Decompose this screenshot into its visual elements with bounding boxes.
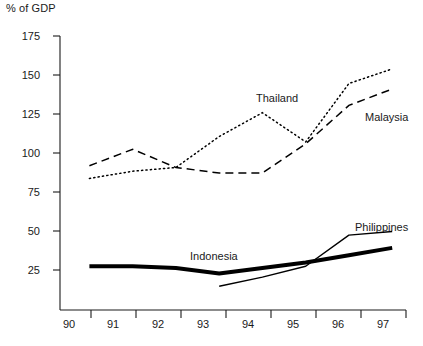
series-line-thailand <box>89 69 392 179</box>
chart-plot-area <box>0 0 423 346</box>
series-line-philippines <box>219 232 392 287</box>
chart-container: % of GDP 175 150 125 100 75 50 25 90 91 … <box>0 0 423 346</box>
y-axis-ticks <box>53 36 60 270</box>
series-line-malaysia <box>89 89 392 173</box>
series-line-indonesia <box>89 248 392 274</box>
x-axis-ticks <box>91 310 406 318</box>
